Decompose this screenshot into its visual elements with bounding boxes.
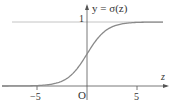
sigmoid-curve (2, 22, 163, 86)
x-axis-label: z (161, 72, 165, 82)
y-axis-arrow-icon (85, 4, 89, 10)
y-tick-1-label: 1 (79, 14, 84, 24)
x-tick-5-label: 5 (134, 92, 139, 102)
origin-label: O (78, 90, 86, 101)
x-tick-neg5-label: −5 (30, 92, 41, 102)
x-axis-arrow-icon (163, 84, 169, 88)
sigmoid-chart (0, 0, 175, 106)
function-label: y = σ(z) (92, 3, 127, 14)
